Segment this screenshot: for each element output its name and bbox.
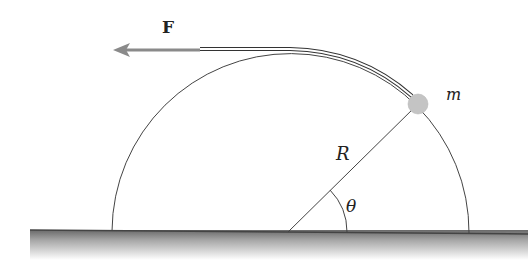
force-label: F [162,17,174,37]
hemisphere-diagram: F m R θ [0,0,528,272]
rope [200,49,412,96]
force-arrow [113,43,200,57]
ground [30,230,528,260]
radius-label: R [335,143,350,164]
mass-ball [408,94,428,114]
mass-label: m [446,85,461,104]
hemisphere-outline [112,54,469,233]
angle-label: θ [346,196,356,216]
angle-arc [330,190,347,232]
